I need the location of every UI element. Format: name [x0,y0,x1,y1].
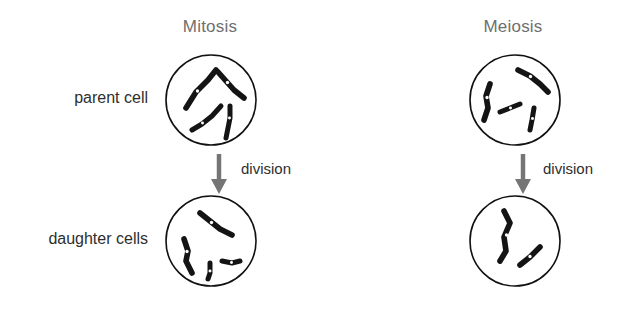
cell-membrane-icon [470,196,560,286]
division-label-mitosis: division [241,160,291,177]
column-title-mitosis: Mitosis [135,17,285,37]
centromere-icon [196,89,199,92]
column-title-meiosis: Meiosis [438,17,588,37]
diagram-canvas: Mitosis Meiosis parent cell daughter cel… [0,0,632,319]
centromere-icon [226,81,229,84]
cell-membrane-icon [470,55,560,145]
centromere-icon [209,270,212,273]
row-label-daughter-cells: daughter cells [0,230,148,248]
cell-mitosis-daughter [164,189,258,293]
arrow-head-icon [515,179,531,194]
row-label-parent-cell: parent cell [0,89,148,107]
centromere-icon [485,96,488,99]
division-arrow-mitosis [207,152,231,198]
centromere-icon [201,122,204,125]
centromere-icon [509,107,512,110]
centromere-icon [529,75,532,78]
cell-meiosis-parent [468,48,562,152]
centromere-icon [210,221,213,224]
centromere-icon [528,255,531,258]
cell-mitosis-parent [164,48,258,152]
arrow-head-icon [211,179,227,194]
division-arrow-meiosis [511,152,535,198]
centromere-icon [228,117,231,120]
division-label-meiosis: division [543,160,593,177]
centromere-icon [531,117,534,120]
centromere-icon [230,261,233,264]
centromere-icon [185,250,188,253]
cell-meiosis-daughter [468,189,562,293]
centromere-icon [505,233,508,236]
